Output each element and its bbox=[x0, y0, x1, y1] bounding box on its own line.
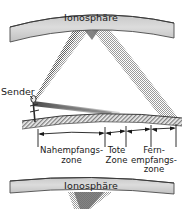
zone-label-near-reception: Nahempfangs- zone bbox=[38, 146, 105, 165]
zone-dead-line2: Zone bbox=[105, 156, 128, 166]
zone-label-dead: Tote Zone bbox=[105, 146, 128, 165]
zone-dimension-line bbox=[38, 124, 176, 147]
zone-label-far-reception: Fern- empfangs- zone bbox=[128, 146, 180, 175]
propagation-diagram bbox=[0, 0, 182, 209]
transmitter-antenna-icon bbox=[30, 96, 39, 122]
zone-near-line2: zone bbox=[38, 156, 105, 166]
earth-surface bbox=[22, 114, 182, 129]
zone-dimension-arrowheads bbox=[38, 127, 176, 136]
diagram-canvas: Ionosphäre Ionosphäre Sender Nahempfangs… bbox=[0, 0, 182, 209]
ionosphere-top-label: Ionosphäre bbox=[0, 12, 182, 23]
ionosphere-bottom-label: Ionosphäre bbox=[0, 180, 182, 191]
zone-far-line3: zone bbox=[128, 165, 180, 175]
transmitter-label: Sender bbox=[1, 86, 35, 97]
